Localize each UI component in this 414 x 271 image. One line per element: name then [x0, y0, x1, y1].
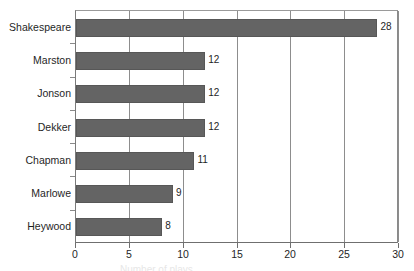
y-axis-minor-tick	[70, 210, 75, 211]
bar	[76, 218, 162, 236]
category-label-dekker: Dekker	[0, 121, 71, 132]
x-axis-title-clipped: Number of plays	[120, 264, 193, 271]
x-axis-tick-label-5: 5	[117, 249, 141, 260]
category-label-jonson: Jonson	[0, 88, 71, 99]
x-axis-tick-label-20: 20	[278, 249, 302, 260]
bar	[76, 152, 194, 170]
bar	[76, 185, 173, 203]
bar-row	[76, 85, 399, 103]
y-axis-minor-tick	[70, 176, 75, 177]
category-label-marston: Marston	[0, 54, 71, 65]
bar-row	[76, 185, 399, 203]
bar	[76, 52, 205, 70]
category-label-heywood: Heywood	[0, 221, 71, 232]
plot-area	[75, 10, 398, 243]
x-axis-tick-label-0: 0	[63, 249, 87, 260]
category-label-chapman: Chapman	[0, 154, 71, 165]
bar-value-label: 8	[165, 221, 171, 231]
y-axis-minor-tick	[70, 77, 75, 78]
bar-value-label: 12	[208, 55, 219, 65]
bar-row	[76, 119, 399, 137]
x-axis-tick-label-25: 25	[332, 249, 356, 260]
bar-row	[76, 218, 399, 236]
category-label-marlowe: Marlowe	[0, 188, 71, 199]
bar-row	[76, 19, 399, 37]
x-axis-tick-label-10: 10	[171, 249, 195, 260]
bar	[76, 19, 377, 37]
bar-value-label: 12	[208, 88, 219, 98]
y-axis-minor-tick	[70, 143, 75, 144]
bar-chart: Number of plays 28Shakespeare12Marston12…	[0, 0, 414, 271]
bar	[76, 85, 205, 103]
y-axis-minor-tick	[70, 43, 75, 44]
category-label-shakespeare: Shakespeare	[0, 21, 71, 32]
bar	[76, 119, 205, 137]
bar-value-label: 28	[380, 22, 391, 32]
bar-row	[76, 52, 399, 70]
bar-row	[76, 152, 399, 170]
bar-value-label: 9	[176, 188, 182, 198]
bar-value-label: 12	[208, 122, 219, 132]
x-axis-tick-label-15: 15	[225, 249, 249, 260]
x-axis-tick-label-30: 30	[386, 249, 410, 260]
y-axis-minor-tick	[70, 110, 75, 111]
bar-value-label: 11	[197, 155, 207, 165]
